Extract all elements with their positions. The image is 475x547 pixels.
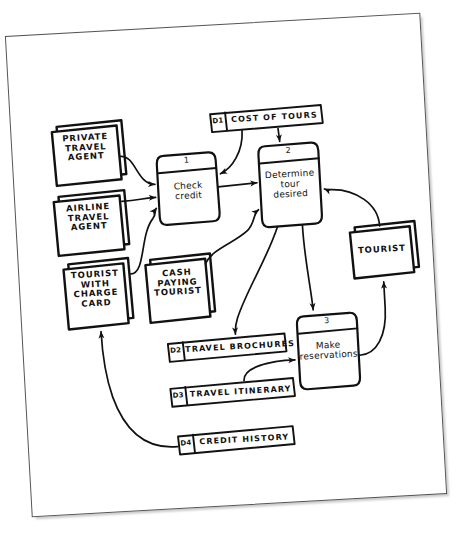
ink-layer: PRIVATE TRAVEL AGENT AIRLINE TRAVEL AGEN… bbox=[0, 0, 475, 547]
process-determine-tour-desired bbox=[258, 142, 322, 227]
flow-d1-to-determine-tour bbox=[278, 128, 280, 141]
flow-determine-tour-to-d2 bbox=[230, 227, 284, 335]
entity-private-travel-agent bbox=[51, 120, 126, 186]
entity-tourist bbox=[349, 221, 419, 279]
datastore-d3 bbox=[170, 378, 295, 407]
flow-determine-tour-to-make-reservations bbox=[302, 225, 313, 310]
datastore-d4 bbox=[178, 426, 295, 454]
flow-airline-agent-to-check-credit bbox=[122, 197, 156, 201]
process-make-reservations bbox=[296, 312, 360, 389]
entity-tourist-with-charge-card bbox=[63, 258, 134, 330]
flow-make-reservations-to-tourist bbox=[356, 282, 388, 355]
flow-d1-to-check-credit bbox=[218, 130, 244, 173]
flow-d4-to-charge-card-tourist bbox=[101, 328, 178, 451]
flow-tourist-to-determine-tour bbox=[324, 186, 379, 229]
datastore-d2 bbox=[168, 333, 287, 362]
diagram-canvas: PRIVATE TRAVEL AGENT AIRLINE TRAVEL AGEN… bbox=[0, 0, 475, 547]
flow-check-credit-to-determine-tour bbox=[218, 183, 257, 187]
entity-airline-travel-agent bbox=[53, 190, 129, 256]
process-check-credit bbox=[156, 152, 220, 225]
datastore-d1 bbox=[210, 105, 323, 132]
diagram-strokes bbox=[0, 0, 475, 547]
